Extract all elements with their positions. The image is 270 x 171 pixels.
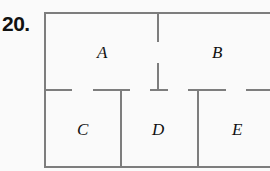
room-label-d: D <box>151 120 165 139</box>
room-label-b: B <box>212 43 223 62</box>
room-label-a: A <box>96 43 108 62</box>
room-label-e: E <box>231 120 243 139</box>
floor-plan-diagram: A B C D E <box>0 0 270 171</box>
room-label-c: C <box>77 120 89 139</box>
